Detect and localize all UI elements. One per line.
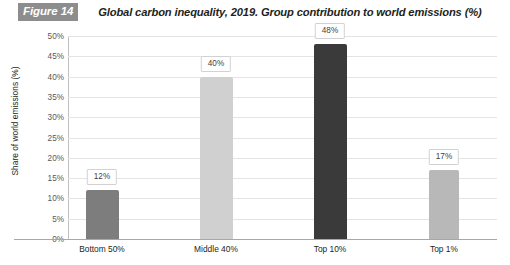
bar-value-label: 17% xyxy=(429,149,459,165)
bar-value-label: 12% xyxy=(87,169,117,185)
bar-value-label: 48% xyxy=(315,23,345,39)
x-axis-tick-label: Bottom 50% xyxy=(79,244,125,254)
y-axis-tick-label: 20% xyxy=(30,153,64,162)
y-axis-tick-labels: 50%45%40%35%30%25%20%15%10%5%0% xyxy=(26,36,64,239)
y-axis-title: Share of world emissions (%) xyxy=(10,36,20,206)
y-axis-tick-label: 15% xyxy=(30,174,64,183)
y-axis-tick-label: 45% xyxy=(30,52,64,61)
bar xyxy=(429,170,459,239)
gridline xyxy=(68,97,497,98)
bar xyxy=(200,77,233,239)
figure-container: Figure 14 Global carbon inequality, 2019… xyxy=(0,0,510,265)
gridline xyxy=(68,77,497,78)
gridline xyxy=(68,56,497,57)
y-axis-tick-label: 35% xyxy=(30,92,64,101)
y-axis-tick-label: 25% xyxy=(30,133,64,142)
chart-area: Share of world emissions (%) 50%45%40%35… xyxy=(0,24,510,265)
y-axis-tick-label: 10% xyxy=(30,194,64,203)
plot-region: 12%40%48%17% xyxy=(68,36,497,239)
y-axis-tick-label: 30% xyxy=(30,113,64,122)
gridline xyxy=(68,117,497,118)
x-axis-tick-label: Top 10% xyxy=(314,244,347,254)
x-axis-tick-label: Top 1% xyxy=(430,244,458,254)
y-axis-tick-label: 40% xyxy=(30,72,64,81)
figure-title: Global carbon inequality, 2019. Group co… xyxy=(98,6,481,18)
y-axis-tick-label: 50% xyxy=(30,32,64,41)
y-axis-tick-label: 5% xyxy=(30,214,64,223)
figure-header: Figure 14 Global carbon inequality, 2019… xyxy=(0,0,510,24)
bar xyxy=(86,190,119,239)
gridline xyxy=(68,138,497,139)
bar xyxy=(314,44,347,239)
x-axis-tick-label: Middle 40% xyxy=(194,244,238,254)
figure-number-badge: Figure 14 xyxy=(18,3,78,21)
gridline xyxy=(68,36,497,37)
bar-value-label: 40% xyxy=(201,56,231,72)
x-axis-line xyxy=(14,239,497,240)
